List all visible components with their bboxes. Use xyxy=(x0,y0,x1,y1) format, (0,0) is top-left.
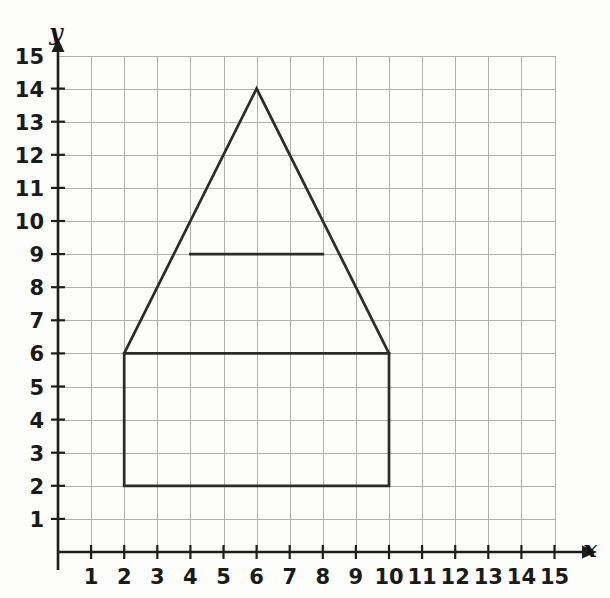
y-tick-label: 5 xyxy=(29,376,44,400)
y-tick-label: 1 xyxy=(29,508,44,532)
x-tick-label: 6 xyxy=(249,565,264,589)
y-tick-label: 7 xyxy=(29,309,44,333)
x-tick-label: 3 xyxy=(150,565,165,589)
y-tick-label: 15 xyxy=(15,45,44,69)
y-tick-label: 3 xyxy=(29,442,44,466)
rectangle-base xyxy=(124,353,389,485)
y-tick-label: 4 xyxy=(29,409,44,433)
x-axis-label: x xyxy=(582,535,597,562)
x-tick-label: 12 xyxy=(441,565,470,589)
y-tick-label: 14 xyxy=(15,78,44,102)
grid-lines xyxy=(58,56,556,553)
x-tick-label: 1 xyxy=(84,565,99,589)
tick-labels: 1234567891011121314151234567891011121314… xyxy=(15,45,569,590)
x-tick-label: 4 xyxy=(183,565,198,589)
y-tick-label: 8 xyxy=(29,276,44,300)
y-tick-label: 11 xyxy=(15,177,44,201)
x-tick-label: 15 xyxy=(540,565,569,589)
x-tick-label: 14 xyxy=(507,565,536,589)
y-axis-label: y xyxy=(48,18,64,45)
x-tick-label: 5 xyxy=(216,565,231,589)
x-tick-label: 11 xyxy=(407,565,436,589)
plot-svg: 1234567891011121314151234567891011121314… xyxy=(0,0,610,598)
y-tick-label: 10 xyxy=(15,210,44,234)
x-tick-label: 9 xyxy=(349,565,364,589)
y-tick-label: 6 xyxy=(29,342,44,366)
y-tick-label: 9 xyxy=(29,243,44,267)
y-tick-label: 2 xyxy=(29,475,44,499)
tick-marks xyxy=(51,89,555,559)
x-tick-label: 13 xyxy=(474,565,503,589)
y-tick-label: 12 xyxy=(15,144,44,168)
coordinate-plane-figure: 1234567891011121314151234567891011121314… xyxy=(0,0,610,598)
x-tick-label: 7 xyxy=(282,565,297,589)
axes-group xyxy=(52,38,598,570)
x-tick-label: 8 xyxy=(315,565,330,589)
y-tick-label: 13 xyxy=(15,111,44,135)
x-tick-label: 10 xyxy=(374,565,403,589)
x-tick-label: 2 xyxy=(117,565,132,589)
